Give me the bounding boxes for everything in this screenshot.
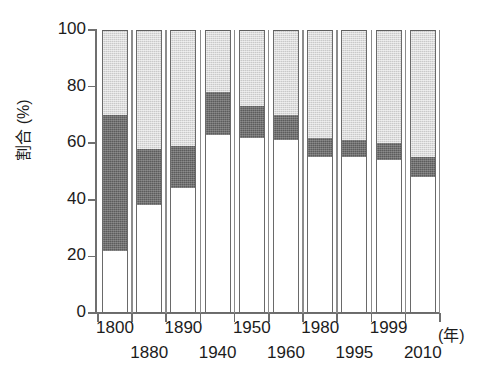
- y-tick-label: 0: [28, 302, 86, 322]
- bar-segment-middle-dark: [341, 140, 367, 157]
- y-tick-mark: [88, 29, 96, 31]
- x-axis-unit-label: (年): [438, 322, 465, 346]
- x-tick-label-1950: 1950: [222, 318, 282, 338]
- bar-segment-bottom-white: [102, 251, 128, 313]
- bar-segment-top-light: [376, 30, 402, 143]
- x-tick-label-1880: 1880: [119, 343, 179, 363]
- bar-segment-top-light: [239, 30, 265, 106]
- x-tick-label-1999: 1999: [359, 318, 419, 338]
- bar-segment-bottom-white: [239, 138, 265, 313]
- y-tick-mark: [88, 142, 96, 144]
- bar-1890: [170, 30, 196, 313]
- bar-1950: [239, 30, 265, 313]
- x-tick-label-1800: 1800: [85, 318, 145, 338]
- bar-segment-bottom-white: [136, 205, 162, 313]
- bar-segment-top-light: [102, 30, 128, 115]
- bar-1880: [136, 30, 162, 313]
- bar-segment-top-light: [410, 30, 436, 157]
- bar-segment-bottom-white: [170, 188, 196, 313]
- bar-segment-middle-dark: [136, 149, 162, 206]
- bar-segment-middle-dark: [102, 115, 128, 251]
- x-tick-mark: [439, 313, 441, 322]
- bar-segment-top-light: [136, 30, 162, 149]
- bar-1940: [205, 30, 231, 313]
- stacked-bar-chart: 割合 (%) 100806040200 18001880189019401950…: [0, 0, 499, 380]
- bar-segment-bottom-white: [376, 160, 402, 313]
- y-tick-label: 80: [28, 76, 86, 96]
- bar-segment-middle-dark: [205, 92, 231, 134]
- x-separator-line: [439, 30, 440, 313]
- bar-1995: [341, 30, 367, 313]
- y-tick-label: 100: [28, 19, 86, 39]
- bar-segment-top-light: [205, 30, 231, 92]
- y-tick-label: 40: [28, 189, 86, 209]
- x-tick-label-1980: 1980: [290, 318, 350, 338]
- bar-1980: [307, 30, 333, 313]
- y-tick-mark: [88, 256, 96, 258]
- bar-segment-middle-dark: [307, 138, 333, 158]
- y-tick-mark: [88, 199, 96, 201]
- bar-2010: [410, 30, 436, 313]
- bar-segment-top-light: [170, 30, 196, 146]
- bar-1999: [376, 30, 402, 313]
- x-tick-label-1960: 1960: [256, 343, 316, 363]
- bar-segment-top-light: [307, 30, 333, 138]
- bar-segment-bottom-white: [307, 157, 333, 313]
- bar-segment-middle-dark: [170, 146, 196, 188]
- x-tick-label-1995: 1995: [324, 343, 384, 363]
- x-tick-label-1890: 1890: [153, 318, 213, 338]
- x-tick-label-1940: 1940: [188, 343, 248, 363]
- plot-area: [96, 30, 436, 313]
- bar-segment-middle-dark: [376, 143, 402, 160]
- bar-segment-top-light: [273, 30, 299, 115]
- y-tick-label: 60: [28, 132, 86, 152]
- bar-segment-bottom-white: [341, 157, 367, 313]
- bar-segment-top-light: [341, 30, 367, 140]
- bar-segment-middle-dark: [239, 106, 265, 137]
- x-tick-label-2010: 2010: [393, 343, 453, 363]
- y-tick-mark: [88, 312, 96, 314]
- bar-1960: [273, 30, 299, 313]
- y-tick-mark: [88, 86, 96, 88]
- bar-segment-middle-dark: [410, 157, 436, 177]
- bar-segment-middle-dark: [273, 115, 299, 140]
- y-tick-label: 20: [28, 245, 86, 265]
- bar-segment-bottom-white: [205, 135, 231, 313]
- bar-segment-bottom-white: [410, 177, 436, 313]
- bar-1800: [102, 30, 128, 313]
- bar-segment-bottom-white: [273, 140, 299, 313]
